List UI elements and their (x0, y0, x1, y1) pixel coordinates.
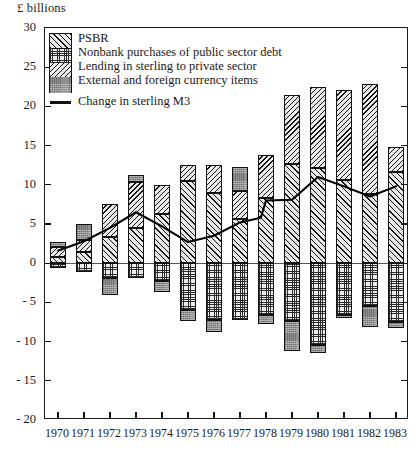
x-axis-tick-mark (265, 412, 266, 418)
x-axis-tick-label: 1974 (149, 426, 173, 441)
legend-swatch-psbr-icon (50, 34, 71, 49)
y-axis-tick-mark (45, 341, 51, 342)
x-axis-tick-mark (369, 412, 370, 418)
y-axis-tick-label: - 20 (2, 412, 36, 427)
chart-root: £ billions 302520151050- 5- 10- 15- 2019… (0, 0, 416, 455)
y-axis-tick-mark (401, 302, 407, 303)
x-axis-tick-label: 1972 (97, 426, 121, 441)
x-axis-tick-label: 1979 (279, 426, 303, 441)
x-axis-tick-label: 1971 (71, 426, 95, 441)
y-axis-tick-mark (45, 302, 51, 303)
legend-swatch-stack (49, 33, 72, 93)
y-axis-tick-mark (45, 184, 51, 185)
y-axis-tick-label: - 5 (2, 294, 36, 309)
y-axis-tick-mark (401, 223, 407, 224)
y-axis-tick-mark (401, 341, 407, 342)
x-axis-tick-mark (343, 412, 344, 418)
legend-label-nonbank: Nonbank purchases of public sector debt (78, 45, 282, 60)
legend-label-m3-line: Change in sterling M3 (78, 94, 190, 109)
y-axis-tick-mark (401, 106, 407, 107)
x-axis-tick-label: 1983 (383, 426, 407, 441)
x-axis-tick-mark (57, 412, 58, 418)
x-axis-tick-mark (135, 412, 136, 418)
x-axis-tick-mark (317, 412, 318, 418)
x-axis-tick-label: 1978 (253, 426, 277, 441)
y-axis-tick-label: 25 (2, 59, 36, 74)
x-axis-tick-mark (239, 412, 240, 418)
m3-line-path (58, 177, 396, 251)
y-axis-tick-label: 20 (2, 98, 36, 113)
y-axis-tick-label: 5 (2, 216, 36, 231)
x-axis-tick-label: 1982 (357, 426, 381, 441)
x-axis-tick-mark (395, 412, 396, 418)
x-axis-tick-label: 1976 (201, 426, 225, 441)
y-axis-tick-mark (401, 67, 407, 68)
y-axis-tick-mark (45, 380, 51, 381)
x-axis-tick-label: 1981 (331, 426, 355, 441)
x-axis-tick-label: 1973 (123, 426, 147, 441)
x-axis-tick-mark (83, 412, 84, 418)
x-axis-tick-label: 1975 (175, 426, 199, 441)
y-axis-tick-mark (401, 263, 407, 264)
y-axis-tick-mark (45, 223, 51, 224)
y-axis-tick-mark (401, 380, 407, 381)
y-axis-tick-label: 0 (2, 255, 36, 270)
y-axis-tick-label: - 10 (2, 333, 36, 348)
legend-label-psbr: PSBR (78, 31, 109, 46)
y-axis-tick-mark (401, 184, 407, 185)
legend-swatch-lending-icon (50, 63, 71, 78)
x-axis-tick-mark (291, 412, 292, 418)
legend-swatch-external-icon (50, 77, 71, 93)
y-axis-tick-mark (45, 263, 51, 264)
y-axis-tick-label: 10 (2, 176, 36, 191)
y-axis-tick-label: 30 (2, 20, 36, 35)
y-axis-tick-mark (45, 145, 51, 146)
x-axis-tick-label: 1980 (305, 426, 329, 441)
y-axis-tick-label: - 15 (2, 372, 36, 387)
x-axis-tick-label: 1977 (227, 426, 251, 441)
x-axis-tick-mark (187, 412, 188, 418)
legend-label-external: External and foreign currency items (78, 73, 258, 88)
legend-line-marker-icon (50, 101, 71, 104)
y-axis-unit-label: £ billions (17, 1, 66, 16)
y-axis-tick-mark (45, 106, 51, 107)
x-axis-tick-mark (161, 412, 162, 418)
x-axis-tick-mark (213, 412, 214, 418)
legend-swatch-nonbank-icon (50, 49, 71, 64)
y-axis-tick-label: 15 (2, 137, 36, 152)
y-axis-tick-mark (401, 145, 407, 146)
x-axis-tick-mark (109, 412, 110, 418)
legend-label-lending: Lending in sterling to private sector (78, 59, 257, 74)
x-axis-tick-label: 1970 (45, 426, 69, 441)
